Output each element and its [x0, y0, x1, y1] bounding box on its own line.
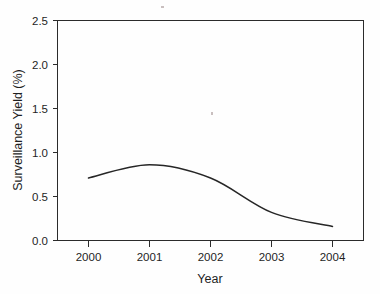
y-tick-label-3: 1.5 [32, 103, 48, 115]
scan-speck [211, 112, 213, 115]
data-series-line [89, 165, 333, 227]
line-chart-canvas: 0.0 0.5 1.0 1.5 2.0 2.5 2000 2001 2002 2… [0, 0, 380, 294]
plot-frame [58, 21, 364, 241]
x-tick-label-3: 2003 [259, 251, 285, 263]
x-tick-label-2: 2002 [198, 251, 224, 263]
y-tick-label-1: 0.5 [32, 191, 48, 203]
x-tick-label-1: 2001 [137, 251, 163, 263]
y-tick-label-5: 2.5 [32, 15, 48, 27]
x-axis-tick-labels: 2000 2001 2002 2003 2004 [76, 251, 346, 263]
y-axis-title: Surveillance Yield (%) [11, 69, 25, 191]
chart-figure: 0.0 0.5 1.0 1.5 2.0 2.5 2000 2001 2002 2… [0, 0, 380, 294]
y-tick-label-0: 0.0 [32, 235, 48, 247]
y-axis-ticks [53, 21, 58, 241]
x-tick-label-0: 2000 [76, 251, 102, 263]
y-tick-label-4: 2.0 [32, 59, 48, 71]
scan-speck [161, 6, 164, 8]
y-tick-label-2: 1.0 [32, 147, 48, 159]
x-axis-ticks [89, 241, 333, 247]
x-axis-title: Year [197, 272, 222, 286]
x-tick-label-4: 2004 [320, 251, 346, 263]
y-axis-tick-labels: 0.0 0.5 1.0 1.5 2.0 2.5 [32, 15, 48, 247]
